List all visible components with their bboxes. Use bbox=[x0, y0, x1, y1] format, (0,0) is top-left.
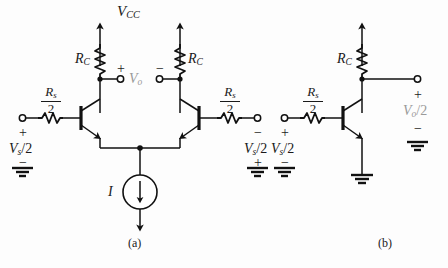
output-b-minus-sign: − bbox=[414, 122, 422, 136]
collector-resistor-right-label: RC bbox=[188, 52, 203, 68]
input-b-minus-sign: − bbox=[281, 156, 289, 170]
input-left-plus-sign: + bbox=[19, 126, 27, 140]
input-terminal-left[interactable] bbox=[19, 115, 25, 121]
circuit-a-group bbox=[12, 26, 268, 228]
circuit-schematic-canvas bbox=[0, 0, 448, 268]
caption-b: (b) bbox=[378, 236, 392, 251]
collector-resistor-b-label: RC bbox=[337, 52, 352, 68]
input-right-plus-sign: + bbox=[254, 156, 262, 170]
output-b-plus-sign: + bbox=[414, 88, 422, 102]
current-source bbox=[123, 175, 157, 209]
circuit-figure: VCC RC RC Rs 2 Rs 2 + Vs/2 − − Vs/2 + + … bbox=[0, 0, 448, 268]
input-b-plus-sign: + bbox=[281, 126, 289, 140]
ground-symbol-output-b bbox=[407, 142, 428, 150]
output-b-label: Vo/2 bbox=[403, 104, 427, 120]
input-terminal-right[interactable] bbox=[254, 115, 260, 121]
transistor-left bbox=[63, 99, 100, 148]
current-source-label: I bbox=[108, 185, 113, 199]
input-terminal-b[interactable] bbox=[281, 115, 287, 121]
vcc-label: VCC bbox=[117, 4, 140, 20]
transistor-right bbox=[180, 99, 217, 148]
input-left-minus-sign: − bbox=[19, 156, 27, 170]
output-terminal-b[interactable] bbox=[414, 76, 420, 82]
output-terminal-right[interactable] bbox=[156, 76, 162, 82]
output-label-a: Vo bbox=[129, 72, 142, 88]
output-minus-sign: − bbox=[156, 62, 164, 76]
source-resistor-right-label: Rs 2 bbox=[220, 85, 240, 115]
source-resistor-b-label: Rs 2 bbox=[303, 85, 323, 115]
input-right-minus-sign: − bbox=[254, 126, 262, 140]
caption-a: (a) bbox=[128, 236, 141, 251]
source-resistor-left-label: Rs 2 bbox=[41, 85, 61, 115]
collector-resistor-left-label: RC bbox=[75, 52, 90, 68]
ground-symbol-emitter-b bbox=[351, 175, 373, 183]
output-terminal-left[interactable] bbox=[117, 76, 123, 82]
output-plus-sign: + bbox=[117, 62, 125, 76]
transistor-b bbox=[325, 99, 362, 175]
